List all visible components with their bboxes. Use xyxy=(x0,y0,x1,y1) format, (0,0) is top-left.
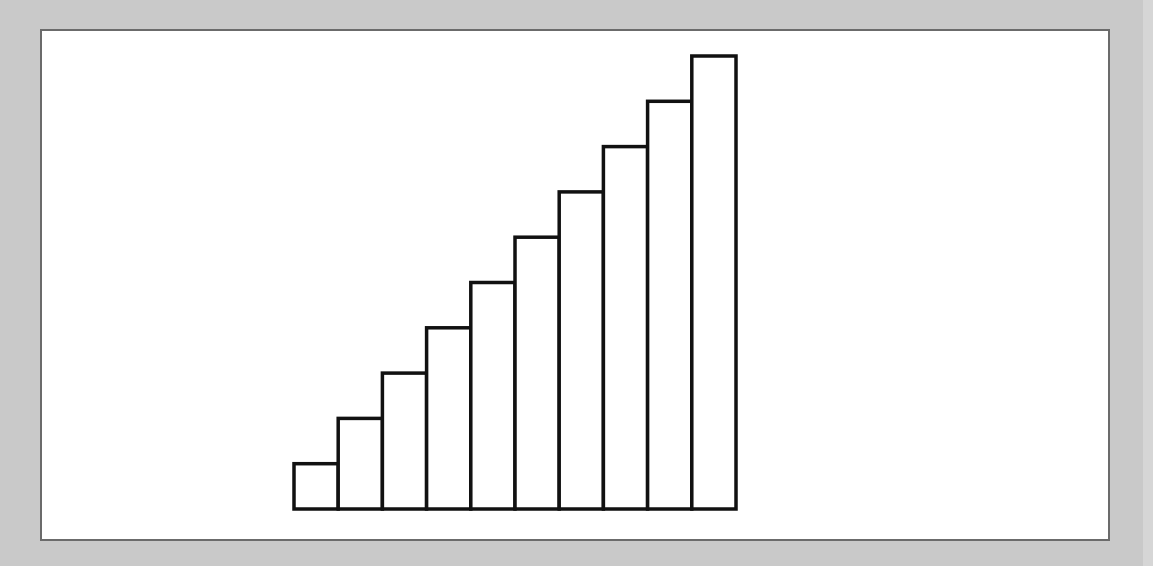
bar-8 xyxy=(603,147,647,509)
bar-1 xyxy=(294,464,338,509)
bar-3 xyxy=(382,373,426,509)
bar-6 xyxy=(515,237,559,509)
bar-series xyxy=(294,56,736,509)
bar-4 xyxy=(427,328,471,509)
bar-5 xyxy=(471,283,515,510)
bar-9 xyxy=(648,101,692,509)
bar-7 xyxy=(559,192,603,509)
bar-chart xyxy=(42,31,1108,539)
bar-10 xyxy=(692,56,736,509)
chart-panel xyxy=(40,29,1110,541)
background-strip xyxy=(1143,0,1153,566)
bar-2 xyxy=(338,418,382,509)
